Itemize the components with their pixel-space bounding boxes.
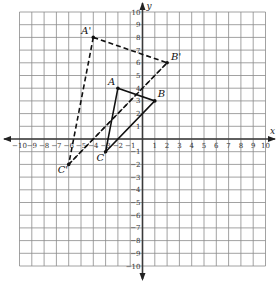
- y-tick-label: 1: [136, 123, 140, 131]
- arrow-down-icon: [140, 273, 146, 281]
- vertex-point: [165, 61, 169, 65]
- y-tick-label: 6: [136, 59, 141, 67]
- y-tick-label: −4: [130, 186, 141, 194]
- y-tick-label: −9: [130, 250, 140, 258]
- y-tick-label: 3: [136, 97, 140, 105]
- x-tick-label: −7: [51, 142, 61, 150]
- vertex-point: [104, 150, 108, 154]
- x-axis-label: x: [270, 126, 275, 136]
- y-tick-label: −1: [130, 148, 140, 156]
- vertex-label: A': [80, 25, 91, 36]
- y-tick-label: −2: [130, 161, 140, 169]
- x-tick-label: 8: [239, 142, 243, 150]
- vertex-point: [153, 99, 157, 103]
- coordinate-plane: −10−9−8−7−6−5−4−3−2−11234567891010987654…: [0, 0, 279, 283]
- x-tick-label: 5: [202, 142, 206, 150]
- y-tick-label: −3: [130, 174, 140, 182]
- y-tick-label: 5: [136, 72, 140, 80]
- vertex-point: [92, 36, 96, 40]
- y-tick-label: −10: [126, 263, 141, 271]
- y-tick-label: −6: [130, 212, 141, 220]
- y-axis-label: y: [146, 1, 153, 11]
- x-tick-label: 2: [165, 142, 169, 150]
- x-tick-label: −8: [39, 142, 49, 150]
- vertex-label: C: [97, 152, 105, 163]
- x-tick-label: −5: [76, 142, 86, 150]
- y-tick-label: −7: [130, 224, 140, 232]
- vertex-point: [116, 86, 120, 90]
- x-tick-label: 4: [189, 142, 194, 150]
- vertex-label: B': [170, 51, 181, 62]
- x-tick-label: 10: [261, 142, 270, 150]
- y-tick-label: −8: [130, 237, 140, 245]
- arrow-left-icon: [3, 136, 11, 142]
- x-tick-label: 6: [214, 142, 219, 150]
- y-tick-label: −5: [130, 199, 140, 207]
- x-tick-label: 9: [251, 142, 255, 150]
- vertex-label: A: [107, 76, 115, 87]
- x-tick-label: −4: [88, 142, 99, 150]
- x-tick-label: 1: [153, 142, 157, 150]
- vertex-label: C': [58, 164, 68, 175]
- triangles: ABCA'B'C': [58, 25, 182, 175]
- y-tick-label: 9: [136, 21, 140, 29]
- x-tick-label: −9: [27, 142, 37, 150]
- y-tick-label: 10: [132, 9, 141, 17]
- x-tick-label: 3: [177, 142, 181, 150]
- y-tick-label: 8: [136, 34, 140, 42]
- x-tick-label: −10: [12, 142, 27, 150]
- x-tick-label: 7: [226, 142, 230, 150]
- vertex-label: B: [157, 88, 165, 99]
